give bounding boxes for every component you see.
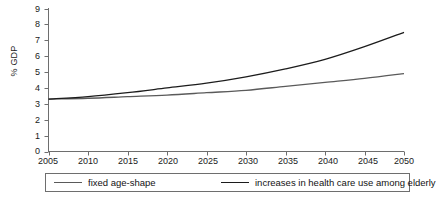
series-line-increases-health-care-use: [49, 32, 405, 99]
y-axis-ticks: [45, 10, 49, 153]
legend-item-increases-health-care-use: increases in health care use among elder…: [221, 174, 436, 191]
legend-swatch-increases-health-care-use: [221, 182, 249, 183]
chart-legend: fixed age-shape increases in health care…: [45, 173, 410, 192]
legend-label-increases-health-care-use: increases in health care use among elder…: [255, 177, 436, 188]
legend-label-fixed-age-shape: fixed age-shape: [88, 177, 156, 188]
legend-swatch-fixed-age-shape: [54, 182, 82, 183]
legend-item-fixed-age-shape: fixed age-shape: [54, 174, 156, 191]
x-axis-ticks: [50, 152, 405, 156]
